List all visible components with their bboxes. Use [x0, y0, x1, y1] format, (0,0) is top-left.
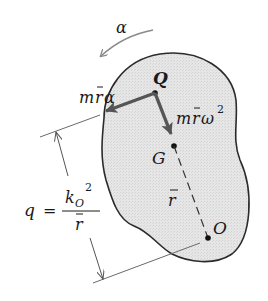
svg-text:r: r: [95, 88, 104, 107]
svg-text:m: m: [79, 88, 94, 107]
svg-text:2: 2: [85, 181, 92, 194]
rigid-body: [102, 53, 249, 262]
svg-text:α: α: [104, 88, 115, 107]
svg-text:m: m: [176, 109, 191, 128]
svg-text:O: O: [75, 197, 84, 210]
dimension-arrow-down: [90, 238, 103, 279]
svg-text:r: r: [168, 191, 177, 210]
svg-text:2: 2: [217, 103, 224, 116]
angular-acceleration-arrow: [101, 30, 153, 56]
svg-text:r: r: [75, 215, 84, 234]
alpha-label: α: [116, 18, 127, 37]
diagram-canvas: α Q m r α m r ω 2 G r O q = k O 2 r: [0, 0, 268, 301]
point-q-label: Q: [153, 68, 168, 88]
dimension-line-bottom: [93, 243, 200, 283]
tangential-force-label: m r α: [79, 87, 115, 107]
q-formula: q = k O 2 r: [24, 181, 100, 234]
point-o-dot: [205, 235, 211, 241]
svg-text:k: k: [65, 188, 75, 207]
svg-text:q: q: [24, 200, 35, 220]
point-g-label: G: [152, 148, 166, 168]
point-o-label: O: [213, 218, 227, 238]
dimension-arrow-up: [56, 132, 68, 176]
svg-text:=: =: [43, 201, 56, 220]
svg-text:ω: ω: [201, 109, 214, 128]
dimension-line-top: [40, 115, 100, 137]
svg-text:r: r: [192, 109, 201, 128]
kinetics-diagram: α Q m r α m r ω 2 G r O q = k O 2 r: [0, 0, 268, 301]
